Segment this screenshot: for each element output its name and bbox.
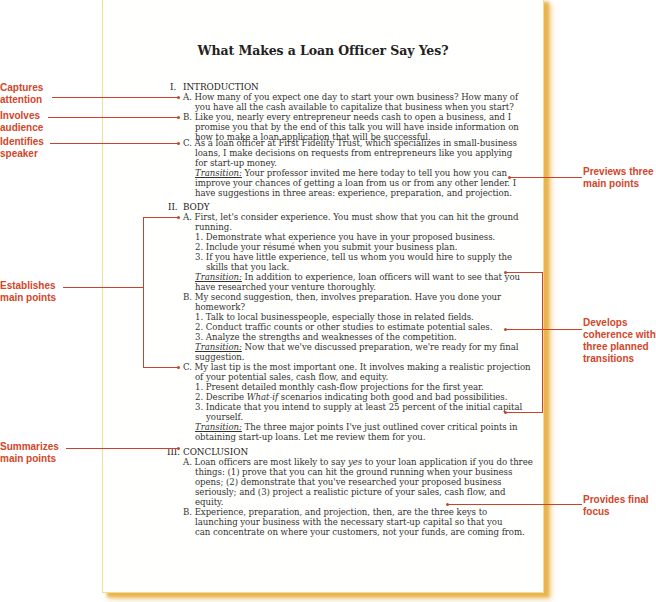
annotation-captures-attention: Captures attention xyxy=(0,82,43,106)
body-a-sub-2: 2. Include your résumé when you submit y… xyxy=(195,242,457,252)
conclusion-point-a-cont: equity. xyxy=(195,497,223,507)
body-transition-3: Transition: The three major points I've … xyxy=(195,422,518,432)
connector-bracket xyxy=(542,272,543,413)
connector-arrow-icon xyxy=(177,216,180,219)
annotation-identifies-speaker: Identifies speaker xyxy=(0,136,44,160)
body-transition-2: Transition: Now that we've discussed pre… xyxy=(195,342,519,352)
annotation-develops-coherence: Develops coherence with three planned tr… xyxy=(583,317,656,365)
section-heading-conclusion: CONCLUSION xyxy=(183,447,248,457)
connector-line xyxy=(50,143,178,144)
connector-bracket xyxy=(143,217,144,367)
intro-point-c-cont: loans, I make decisions on requests from… xyxy=(195,148,512,158)
transition-label: Transition: xyxy=(195,168,242,178)
body-a-sub-3-cont: skills that you lack. xyxy=(206,262,289,272)
body-c-sub-3-cont: yourself. xyxy=(206,412,243,422)
conclusion-point-a-cont: things: (1) prove that you can hit the g… xyxy=(195,467,512,477)
connector-arrow-icon xyxy=(177,142,180,145)
intro-point-c-cont: for start-up money. xyxy=(195,158,277,168)
body-point-a-cont: running. xyxy=(195,222,232,232)
connector-line xyxy=(143,367,178,368)
connector-line xyxy=(510,177,582,178)
connector-line xyxy=(63,287,144,288)
conclusion-point-b: B. Experience, preparation, and projecti… xyxy=(183,507,487,517)
transition-label: Transition: xyxy=(195,422,242,432)
connector-line xyxy=(48,117,178,118)
body-a-sub-1: 1. Demonstrate what experience you have … xyxy=(195,232,495,242)
conclusion-point-b-cont: launching your business with the necessa… xyxy=(195,517,502,527)
connector-line xyxy=(52,97,178,98)
body-point-b-cont: homework? xyxy=(195,302,245,312)
intro-point-c: C. As a loan officer at First Fidelity T… xyxy=(183,138,517,148)
connector-arrow-icon xyxy=(177,116,180,119)
section-numeral-intro: I. xyxy=(170,82,176,92)
intro-point-b: B. Like you, nearly every entrepreneur n… xyxy=(183,112,511,122)
section-heading-intro: INTRODUCTION xyxy=(183,82,259,92)
body-point-c-cont: of your potential sales, cash flow, and … xyxy=(195,372,388,382)
intro-point-b-cont: promise you that by the end of this talk… xyxy=(195,122,519,132)
intro-transition: Transition: Your professor invited me he… xyxy=(195,168,507,178)
connector-line xyxy=(506,272,543,273)
body-b-sub-1: 1. Talk to local businesspeople, especia… xyxy=(195,312,474,322)
annotation-establishes-main-points: Establishes main points xyxy=(0,280,56,304)
connector-line xyxy=(506,412,543,413)
body-a-sub-3: 3. If you have little experience, tell u… xyxy=(195,252,512,262)
connector-line xyxy=(66,448,178,449)
annotation-involves-audience: Involves audience xyxy=(0,110,43,134)
conclusion-point-b-cont: can concentrate on where your customers,… xyxy=(195,527,525,537)
transition-label: Transition: xyxy=(195,342,242,352)
section-heading-body: BODY xyxy=(183,202,210,212)
intro-transition-cont: have suggestions in three areas: experie… xyxy=(195,188,512,198)
connector-arrow-icon xyxy=(177,447,180,450)
body-transition-2-cont: suggestion. xyxy=(195,352,245,362)
annotation-previews-three-main-points: Previews three main points xyxy=(583,166,654,190)
body-c-sub-1: 1. Present detailed monthly cash-flow pr… xyxy=(195,382,484,392)
connector-arrow-icon xyxy=(177,96,180,99)
connector-line xyxy=(448,504,582,505)
body-c-sub-3: 3. Indicate that you intend to supply at… xyxy=(195,402,522,412)
transition-label: Transition: xyxy=(195,272,242,282)
conclusion-point-a-cont: opens; (2) demonstrate that you've resea… xyxy=(195,477,501,487)
connector-line xyxy=(143,217,178,218)
annotation-provides-final-focus: Provides final focus xyxy=(583,494,649,518)
intro-transition-cont: improve your chances of getting a loan f… xyxy=(195,178,516,188)
body-transition-1-cont: have researched your venture thoroughly. xyxy=(195,282,376,292)
body-transition-3-cont: obtaining start-up loans. Let me review … xyxy=(195,432,425,442)
page-title: What Makes a Loan Officer Say Yes? xyxy=(103,43,543,58)
body-point-a: A. First, let's consider experience. You… xyxy=(183,212,518,222)
conclusion-point-a: A. Loan officers are most likely to say … xyxy=(183,457,533,467)
annotation-summarizes-main-points: Summarizes main points xyxy=(0,441,59,465)
body-point-c: C. My last tip is the most important one… xyxy=(183,362,531,372)
connector-line xyxy=(506,329,582,330)
intro-point-a: A. How many of you expect one day to sta… xyxy=(183,92,518,102)
section-numeral-body: II. xyxy=(168,202,178,212)
connector-arrow-icon xyxy=(177,366,180,369)
body-b-sub-2: 2. Conduct traffic counts or other studi… xyxy=(195,322,492,332)
intro-point-a-cont: you have all the cash available to capit… xyxy=(195,102,514,112)
body-c-sub-2: 2. Describe What-if scenarios indicating… xyxy=(195,392,507,402)
body-transition-1: Transition: In addition to experience, l… xyxy=(195,272,520,282)
body-point-b: B. My second suggestion, then, involves … xyxy=(183,292,501,302)
conclusion-point-a-cont: seriously; and (3) project a realistic p… xyxy=(195,487,505,497)
body-b-sub-3: 3. Analyze the strengths and weaknesses … xyxy=(195,332,457,342)
